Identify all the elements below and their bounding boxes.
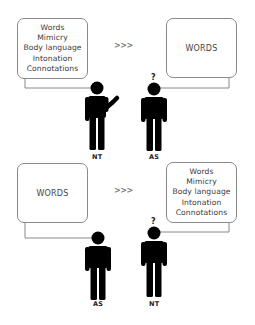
bubble-line: Mimicry bbox=[186, 177, 217, 187]
bubble-line: Words bbox=[41, 23, 65, 33]
person-figure-as bbox=[83, 230, 113, 302]
speech-bubble-top-listener: WORDS bbox=[166, 18, 237, 78]
bubble-line: Intonation bbox=[33, 54, 73, 64]
bubble-line: Body language bbox=[172, 187, 230, 197]
bubble-line: WORDS bbox=[185, 44, 217, 53]
person-figure-as bbox=[139, 81, 169, 153]
figure-label-as: AS bbox=[149, 153, 159, 161]
connector-bottom-speaker bbox=[25, 222, 92, 238]
speech-bubble-bottom-listener: Words Mimicry Body language Intonation C… bbox=[166, 162, 237, 223]
bubble-line: Words bbox=[190, 167, 214, 177]
communication-diagram: Words Mimicry Body language Intonation C… bbox=[0, 0, 255, 325]
arrow-bottom: >>> bbox=[114, 186, 133, 195]
bubble-line: WORDS bbox=[36, 189, 68, 198]
person-figure-nt bbox=[140, 225, 170, 299]
figure-label-nt: NT bbox=[92, 153, 102, 161]
bubble-line: Intonation bbox=[182, 198, 222, 208]
bubble-line: Connotations bbox=[27, 64, 79, 74]
bubble-line: Connotations bbox=[176, 208, 228, 218]
figure-label-nt: NT bbox=[149, 300, 159, 308]
speech-bubble-bottom-speaker: WORDS bbox=[17, 163, 88, 223]
person-figure-nt-gesturing bbox=[82, 80, 122, 152]
arrow-top: >>> bbox=[114, 41, 133, 50]
speech-bubble-top-speaker: Words Mimicry Body language Intonation C… bbox=[17, 18, 88, 79]
bubble-line: Body language bbox=[23, 43, 81, 53]
figure-label-as: AS bbox=[93, 300, 103, 308]
bubble-line: Mimicry bbox=[37, 33, 68, 43]
